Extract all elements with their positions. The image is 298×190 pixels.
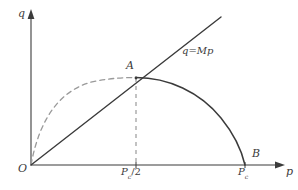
tick-half-suffix: /2 — [131, 166, 141, 177]
line-equation-label: q=Mp — [182, 46, 213, 56]
tick-half-base: P — [121, 166, 128, 177]
tick-full-subscript: c — [245, 173, 248, 180]
point-a-label: A — [126, 60, 134, 71]
point-b-label: B — [252, 148, 260, 159]
y-axis-arrowhead — [28, 9, 35, 19]
x-tick-label-pc: Pc — [238, 167, 248, 179]
plot-canvas — [0, 0, 298, 190]
x-tick-label-half-pc: Pc/2 — [121, 167, 141, 179]
line-q-equals-mp — [31, 17, 221, 165]
y-axis-label: q — [18, 8, 25, 19]
tick-full-base: P — [238, 166, 245, 177]
figure-container: q p O A B q=Mp Pc/2 Pc — [0, 0, 298, 190]
point-a-marker — [135, 77, 138, 80]
x-axis-label: p — [286, 166, 293, 177]
tick-half-subscript: c — [128, 173, 131, 180]
curve-right-solid — [136, 78, 245, 166]
x-axis-arrowhead — [275, 162, 285, 169]
origin-label: O — [18, 163, 27, 174]
